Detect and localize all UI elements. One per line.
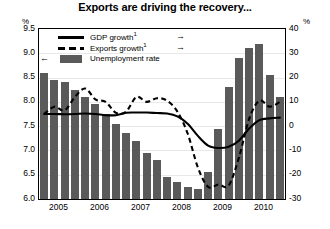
legend-item: Exports growth1→ (58, 42, 258, 53)
legend-item: GDP growth1→ (58, 31, 258, 42)
legend-swatch (60, 55, 82, 63)
filled-box-icon: ← (58, 53, 84, 64)
legend-item-label: Unemployment rate (90, 54, 160, 63)
right-axis-tick: 10 (289, 96, 319, 105)
left-axis-tick: 7.0 (5, 145, 35, 154)
right-axis-tick: 20 (289, 72, 319, 81)
right-axis-tick: -30 (289, 194, 319, 203)
left-axis: 9.59.08.58.07.57.06.56.0 (2, 28, 35, 200)
x-axis-year-label: 2009 (213, 202, 232, 212)
x-axis-year-label: 2006 (90, 202, 109, 212)
chart-title: Exports are driving the recovery... (0, 1, 330, 13)
right-axis-tick: 0 (289, 121, 319, 130)
footnote-marker: 1 (143, 42, 146, 48)
dashed-line-icon (58, 42, 84, 53)
left-axis-tick: 8.5 (5, 72, 35, 81)
arrow-right-icon: → (176, 42, 185, 53)
left-axis-tick: 7.5 (5, 121, 35, 130)
left-axis-tick: 9.0 (5, 48, 35, 57)
solid-line-icon (58, 31, 84, 42)
x-axis-year-label: 2005 (49, 202, 68, 212)
right-axis-tick: 30 (289, 48, 319, 57)
legend-swatch (58, 36, 84, 39)
footnote-marker: 1 (133, 31, 136, 37)
left-axis-tick: 6.5 (5, 169, 35, 178)
right-axis-tick: 40 (289, 24, 319, 33)
legend-swatch (58, 47, 84, 50)
gdp-growth-line (44, 112, 280, 148)
arrow-right-icon: → (176, 31, 185, 42)
right-axis-tick: -10 (289, 145, 319, 154)
exports-growth-line (44, 88, 280, 187)
legend-item-label: GDP growth1 (90, 31, 137, 42)
legend-item: ←Unemployment rate (58, 53, 258, 64)
left-axis-tick: 8.0 (5, 96, 35, 105)
left-axis-tick: 6.0 (5, 194, 35, 203)
x-axis-year-label: 2010 (254, 202, 273, 212)
right-axis-tick: -20 (289, 169, 319, 178)
arrow-left-icon: ← (40, 53, 49, 64)
x-axis-year-label: 2007 (131, 202, 150, 212)
chart-legend: GDP growth1→Exports growth1→←Unemploymen… (58, 31, 258, 64)
x-axis-year-labels: 200520062007200820092010 (38, 202, 286, 218)
right-axis: 403020100-10-20-30 (289, 28, 323, 200)
chart-figure: Exports are driving the recovery... % % … (0, 0, 330, 229)
left-axis-tick: 9.5 (5, 24, 35, 33)
x-axis-year-label: 2008 (172, 202, 191, 212)
legend-item-label: Exports growth1 (90, 42, 147, 53)
